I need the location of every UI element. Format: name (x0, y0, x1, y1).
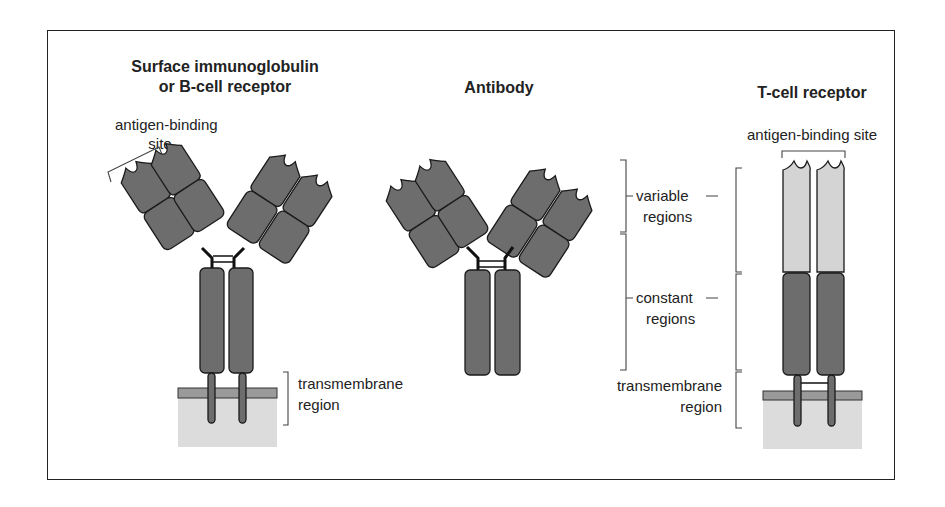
tm-label-1: transmembrane (617, 377, 722, 394)
tcr-variable-bracket (736, 168, 742, 272)
bcr-antigen-label-1: antigen-binding (115, 116, 218, 133)
ab-disulfide (479, 261, 504, 267)
tcr-alpha-constant (783, 273, 810, 375)
bcr-hinge (202, 248, 244, 268)
bcr-disulfide (213, 256, 233, 262)
tcr-title: T-cell receptor (757, 84, 866, 101)
bcr-heavy-chain-left (200, 268, 224, 373)
bcr-tm-label-1: transmembrane (298, 375, 403, 392)
bcr-heavy-chain-right (229, 268, 253, 373)
tcr-membrane-band (763, 391, 862, 400)
variable-label-1: variable (636, 187, 689, 204)
bcr-title-line1: Surface immunoglobulin (131, 58, 319, 75)
tcr-constant-bracket (736, 274, 742, 370)
bcr-tm-bracket (283, 372, 288, 425)
immune-receptor-diagram: Surface immunoglobulin or B-cell recepto… (0, 0, 945, 507)
tcr-antigen-label: antigen-binding site (747, 126, 877, 143)
bcr-tm-right (239, 373, 246, 423)
tcr-membrane (763, 399, 862, 449)
tcr-panel: T-cell receptor antigen-binding site (736, 84, 877, 449)
tcr-beta-variable (817, 161, 844, 272)
tcr-beta-constant (817, 273, 844, 375)
ab-heavy-chain-right (495, 270, 520, 375)
tcr-tm-alpha (794, 375, 801, 426)
tm-label-2: region (680, 398, 722, 415)
variable-bracket (620, 160, 633, 232)
tcr-tm-beta (828, 375, 835, 426)
bcr-membrane (178, 397, 277, 447)
label-ticks (706, 196, 718, 298)
tcr-tm-bracket (736, 372, 742, 428)
constant-bracket (620, 234, 633, 370)
bcr-tm-label-2: region (298, 396, 340, 413)
tcr-alpha-variable (783, 161, 810, 272)
constant-label-2: regions (646, 310, 695, 327)
tcr-antigen-bracket (782, 151, 845, 158)
bcr-title-line2: or B-cell receptor (159, 78, 291, 95)
ab-heavy-chain-left (465, 270, 490, 375)
antibody-title: Antibody (464, 79, 533, 96)
variable-label-2: regions (643, 208, 692, 225)
bcr-panel: Surface immunoglobulin or B-cell recepto… (108, 58, 403, 447)
bcr-membrane-band (178, 388, 277, 398)
constant-label-1: constant (636, 289, 694, 306)
bcr-tm-left (208, 373, 215, 423)
antibody-panel: Antibody variable regions constant regio… (381, 79, 722, 415)
